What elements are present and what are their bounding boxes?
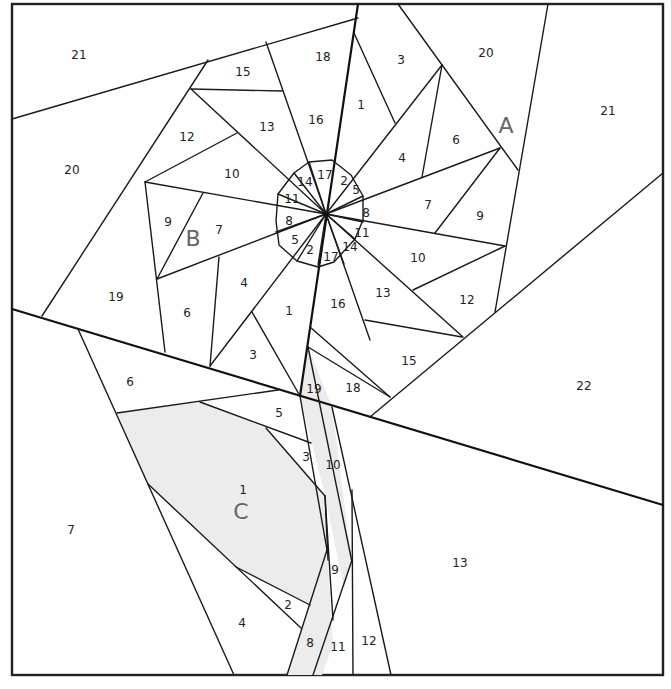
piece-number-b-9: 9 (164, 215, 172, 229)
piece-number-a-15: 15 (401, 354, 416, 368)
piece-number-a-13: 13 (375, 286, 390, 300)
piece-number-b-7: 7 (215, 223, 223, 237)
piece-number-c-5: 5 (275, 406, 283, 420)
piece-number-a-22: 22 (576, 379, 591, 393)
piece-number-b-6: 6 (183, 306, 191, 320)
piece-number-b-4: 4 (240, 276, 248, 290)
piece-number-a-12: 12 (459, 293, 474, 307)
piece-number-a-3: 3 (397, 53, 405, 67)
piece-number-a-17: 17 (323, 250, 338, 264)
piece-number-c-11: 11 (330, 640, 345, 654)
piece-number-a-11: 11 (354, 226, 369, 240)
piece-number-c-12: 12 (361, 634, 376, 648)
piece-number-a-18: 18 (345, 381, 360, 395)
piece-number-c-19: 19 (306, 382, 321, 396)
piece-number-b-5: 5 (291, 233, 299, 247)
piece-number-b-17: 17 (317, 168, 332, 182)
piece-number-c-3: 3 (302, 450, 310, 464)
piece-number-b-21: 21 (71, 48, 86, 62)
piece-number-c-6: 6 (126, 375, 134, 389)
piece-number-b-12: 12 (179, 130, 194, 144)
piece-number-c-8: 8 (306, 636, 314, 650)
piece-number-c-2: 2 (284, 598, 292, 612)
piece-number-b-2: 2 (306, 243, 314, 257)
piece-number-b-19: 19 (108, 290, 123, 304)
pattern-svg: A B C 123456789101112131415161718202122 … (0, 0, 671, 689)
piece-number-a-14: 14 (342, 240, 357, 254)
piece-number-a-20: 20 (478, 46, 493, 60)
piece-number-a-1: 1 (357, 98, 365, 112)
piece-number-a-6: 6 (452, 133, 460, 147)
piece-number-c-7: 7 (67, 523, 75, 537)
section-label-c: C (233, 499, 248, 524)
piece-number-a-8: 8 (362, 206, 370, 220)
piece-number-b-20: 20 (64, 163, 79, 177)
piece-number-c-13: 13 (452, 556, 467, 570)
piece-number-c-9: 9 (331, 563, 339, 577)
piece-number-a-10: 10 (410, 251, 425, 265)
piece-number-b-14: 14 (297, 175, 312, 189)
piece-number-a-7: 7 (424, 198, 432, 212)
piece-number-b-18: 18 (315, 50, 330, 64)
piece-number-a-4: 4 (398, 151, 406, 165)
piece-number-b-15: 15 (235, 65, 250, 79)
piece-number-b-13: 13 (259, 120, 274, 134)
piece-number-b-8: 8 (285, 214, 293, 228)
piece-number-a-2: 2 (340, 174, 348, 188)
piece-number-b-3: 3 (249, 348, 257, 362)
piece-number-a-21: 21 (600, 104, 615, 118)
piece-number-c-4: 4 (238, 616, 246, 630)
section-label-b: B (185, 226, 200, 251)
piece-number-a-9: 9 (476, 209, 484, 223)
piece-number-a-16: 16 (330, 297, 345, 311)
section-label-a: A (498, 113, 513, 138)
piece-number-c-1: 1 (239, 483, 247, 497)
piece-number-a-5: 5 (352, 183, 360, 197)
paper-piecing-diagram: A B C 123456789101112131415161718202122 … (0, 0, 671, 689)
piece-number-b-1: 1 (285, 304, 293, 318)
center-point (324, 212, 329, 217)
piece-number-b-11: 11 (284, 192, 299, 206)
piece-number-b-16: 16 (308, 113, 323, 127)
piece-number-b-10: 10 (224, 167, 239, 181)
piece-number-c-10: 10 (325, 458, 340, 472)
